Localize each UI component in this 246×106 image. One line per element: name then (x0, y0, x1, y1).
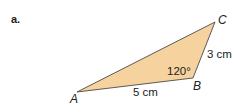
angle-b-measure: 120° (167, 65, 191, 77)
side-ab-length: 5 cm (133, 86, 158, 98)
vertex-c-label: C (218, 13, 227, 27)
triangle-diagram: A B C 5 cm 3 cm 120° (0, 0, 246, 106)
side-bc-length: 3 cm (207, 48, 232, 60)
vertex-a-label: A (69, 92, 78, 106)
vertex-b-label: B (193, 79, 201, 93)
